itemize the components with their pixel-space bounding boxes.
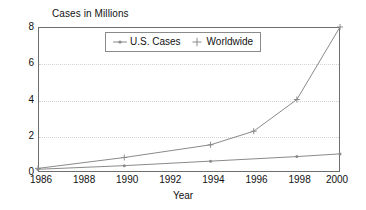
x-tick-1994: 1994 xyxy=(202,174,224,185)
x-tick-1998: 1998 xyxy=(288,174,310,185)
x-tick-2000: 2000 xyxy=(326,174,348,185)
legend-label-us-cases: U.S. Cases xyxy=(130,36,181,47)
data-point-marker xyxy=(35,165,41,171)
x-tick-1986: 1986 xyxy=(30,174,52,185)
legend-item-us-cases[interactable]: U.S. Cases xyxy=(113,36,181,47)
chart-screenshot: Cases in Millions 8 6 4 2 0 1986 1988 19… xyxy=(0,0,366,210)
x-axis-title: Year xyxy=(0,190,366,201)
data-point-marker xyxy=(337,24,343,30)
plus-marker-icon xyxy=(190,37,204,47)
chart-legend: U.S. Cases Worldwide xyxy=(105,32,261,52)
x-tick-1988: 1988 xyxy=(73,174,95,185)
y-axis-ticks: 8 6 4 2 0 xyxy=(0,27,34,172)
data-point-marker xyxy=(295,155,298,158)
data-point-marker xyxy=(121,155,127,161)
y-tick-6: 6 xyxy=(8,57,34,68)
legend-item-worldwide[interactable]: Worldwide xyxy=(190,36,254,47)
series-line-0 xyxy=(38,154,340,169)
data-point-marker xyxy=(123,164,126,167)
data-point-marker xyxy=(339,152,342,155)
x-tick-1996: 1996 xyxy=(245,174,267,185)
data-point-marker xyxy=(208,142,214,148)
y-tick-2: 2 xyxy=(8,130,34,141)
x-tick-1992: 1992 xyxy=(159,174,181,185)
y-tick-4: 4 xyxy=(8,94,34,105)
x-tick-1990: 1990 xyxy=(116,174,138,185)
legend-label-worldwide: Worldwide xyxy=(207,36,254,47)
x-axis-ticks: 1986 1988 1990 1992 1994 1996 1998 2000 xyxy=(38,174,340,188)
y-axis-title: Cases in Millions xyxy=(52,8,129,19)
y-tick-8: 8 xyxy=(8,21,34,32)
data-point-marker xyxy=(209,160,212,163)
dot-line-marker-icon xyxy=(113,37,127,47)
